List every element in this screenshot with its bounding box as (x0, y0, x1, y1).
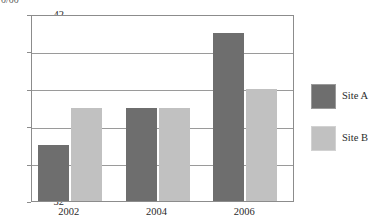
legend-label: Site A (342, 90, 368, 101)
bar-site-b-2006 (246, 89, 277, 201)
y-tick-mark (27, 202, 31, 203)
legend-item[interactable]: Site A (311, 84, 380, 126)
bar-site-a-2002 (38, 145, 69, 201)
x-tick-label: 2006 (214, 206, 274, 217)
bar-series-container (32, 16, 293, 201)
chart-legend: Site ASite B (311, 84, 380, 168)
x-tick-label: 2002 (39, 206, 99, 217)
x-tick-label: 2004 (127, 206, 187, 217)
bar-site-b-2004 (159, 108, 190, 202)
bar-site-a-2006 (213, 33, 244, 201)
legend-swatch-site-a (311, 84, 336, 109)
bar-site-a-2004 (126, 108, 157, 202)
legend-swatch-site-b (311, 126, 336, 151)
legend-label: Site B (342, 132, 368, 143)
legend-item[interactable]: Site B (311, 126, 380, 168)
plot-area (31, 15, 294, 202)
bar-site-b-2002 (71, 108, 102, 202)
bar-chart: 424038363432 200220042006 Site ASite B (0, 0, 380, 224)
